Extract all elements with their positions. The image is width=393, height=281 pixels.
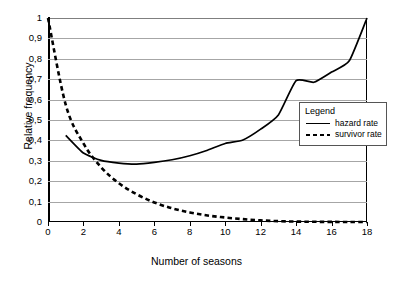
x-tick-mark	[119, 222, 120, 226]
y-tick-label: 0,9	[0, 33, 42, 43]
x-tick-label: 0	[36, 227, 60, 237]
x-tick-label: 18	[355, 227, 379, 237]
y-tick-label: 0	[0, 217, 42, 227]
x-tick-label: 4	[107, 227, 131, 237]
x-tick-mark	[296, 222, 297, 226]
x-tick-label: 6	[142, 227, 166, 237]
legend-item-hazard-rate: hazard rate	[305, 118, 382, 129]
x-tick-label: 14	[284, 227, 308, 237]
y-axis-title: Relative frequency	[22, 26, 34, 186]
y-tick-label: 0,7	[0, 74, 42, 84]
y-tick-label: 0,5	[0, 115, 42, 125]
y-tick-label: 0,6	[0, 95, 42, 105]
chart-root: 00,10,20,30,40,50,60,70,80,91 0246810121…	[0, 0, 393, 281]
x-tick-mark	[83, 222, 84, 226]
x-tick-label: 16	[320, 227, 344, 237]
y-tick-label: 0,3	[0, 156, 42, 166]
y-tick-label: 0,4	[0, 135, 42, 145]
x-tick-mark	[225, 222, 226, 226]
x-tick-mark	[154, 222, 155, 226]
y-tick-label: 1	[0, 13, 42, 23]
x-tick-mark	[332, 222, 333, 226]
x-tick-label: 2	[71, 227, 95, 237]
y-tick-label: 0,2	[0, 176, 42, 186]
x-tick-label: 8	[178, 227, 202, 237]
legend-label-survivor-rate: survivor rate	[335, 129, 382, 140]
x-axis-title: Number of seasons	[0, 255, 393, 267]
legend-swatch-dashed-line-icon	[305, 131, 331, 139]
x-tick-label: 10	[213, 227, 237, 237]
legend-item-survivor-rate: survivor rate	[305, 129, 382, 140]
x-tick-label: 12	[249, 227, 273, 237]
legend: Legend hazard rate survivor rate	[299, 102, 387, 146]
x-tick-mark	[367, 222, 368, 226]
y-tick-label: 0,1	[0, 197, 42, 207]
legend-swatch-solid-line-icon	[305, 120, 331, 128]
legend-title: Legend	[305, 106, 382, 117]
y-tick-label: 0,8	[0, 54, 42, 64]
x-tick-mark	[48, 222, 49, 226]
x-tick-mark	[190, 222, 191, 226]
x-tick-mark	[261, 222, 262, 226]
legend-label-hazard-rate: hazard rate	[335, 118, 378, 129]
